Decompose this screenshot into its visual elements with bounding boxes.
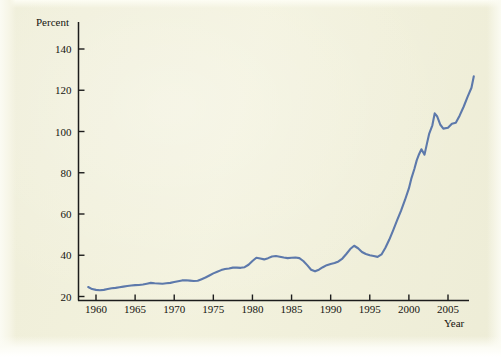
y-tick-label: 60: [61, 208, 73, 220]
y-tick-label: 120: [55, 84, 72, 96]
x-tick-label: 2005: [437, 303, 460, 315]
y-tick-label: 40: [61, 249, 73, 261]
y-tick-group: 20406080100120140: [55, 43, 85, 303]
x-tick-label: 2000: [398, 303, 421, 315]
y-tick-label: 140: [55, 43, 72, 55]
x-axis-title: Year: [444, 317, 465, 329]
x-tick-group: 1960196519701975198019851990199520002005: [85, 295, 460, 315]
x-tick-label: 1970: [163, 303, 186, 315]
x-tick-label: 1990: [320, 303, 343, 315]
x-tick-label: 1995: [359, 303, 382, 315]
line-chart: 20406080100120140 1960196519701975198019…: [0, 0, 501, 357]
series-group: [88, 76, 474, 290]
data-line-percent: [88, 76, 474, 290]
axes: [78, 22, 469, 301]
y-tick-label: 20: [61, 291, 73, 303]
figure-container: 20406080100120140 1960196519701975198019…: [0, 0, 501, 357]
x-tick-label: 1980: [241, 303, 264, 315]
y-tick-label: 80: [61, 167, 73, 179]
x-tick-label: 1960: [85, 303, 108, 315]
y-tick-label: 100: [55, 126, 72, 138]
y-axis-title: Percent: [36, 16, 69, 28]
x-tick-label: 1965: [124, 303, 147, 315]
x-tick-label: 1975: [202, 303, 225, 315]
x-tick-label: 1985: [281, 303, 304, 315]
